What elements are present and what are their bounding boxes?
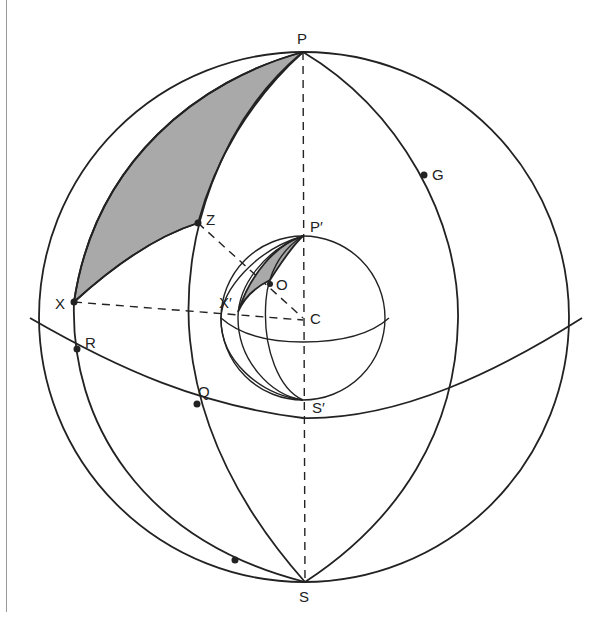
outer-sphere bbox=[39, 52, 569, 582]
point-q bbox=[194, 401, 201, 408]
axis-ps bbox=[303, 52, 305, 582]
equator bbox=[30, 318, 582, 418]
label-p: P bbox=[297, 30, 307, 47]
label-c: C bbox=[310, 310, 321, 327]
label-g: G bbox=[432, 166, 444, 183]
point-lower bbox=[232, 557, 239, 564]
point-x bbox=[71, 299, 78, 306]
label-r: R bbox=[85, 334, 96, 351]
point-o bbox=[267, 281, 273, 287]
label-x-prime: X′ bbox=[219, 294, 232, 311]
label-x: X bbox=[55, 295, 65, 312]
inner-equator bbox=[221, 318, 389, 342]
inner-meridian-1 bbox=[221, 236, 303, 400]
celestial-sphere-diagram: P G Z P′ O X X′ C R Q S′ S bbox=[0, 0, 599, 637]
label-q: Q bbox=[198, 383, 210, 400]
point-r bbox=[74, 346, 81, 353]
label-o: O bbox=[276, 276, 288, 293]
label-s: S bbox=[299, 588, 309, 605]
label-p-prime: P′ bbox=[310, 218, 323, 235]
point-z bbox=[195, 220, 202, 227]
label-z: Z bbox=[206, 211, 215, 228]
meridian-g bbox=[303, 52, 458, 582]
point-g bbox=[421, 172, 428, 179]
label-s-prime: S′ bbox=[312, 399, 325, 416]
inner-shaded-triangle bbox=[238, 236, 303, 312]
